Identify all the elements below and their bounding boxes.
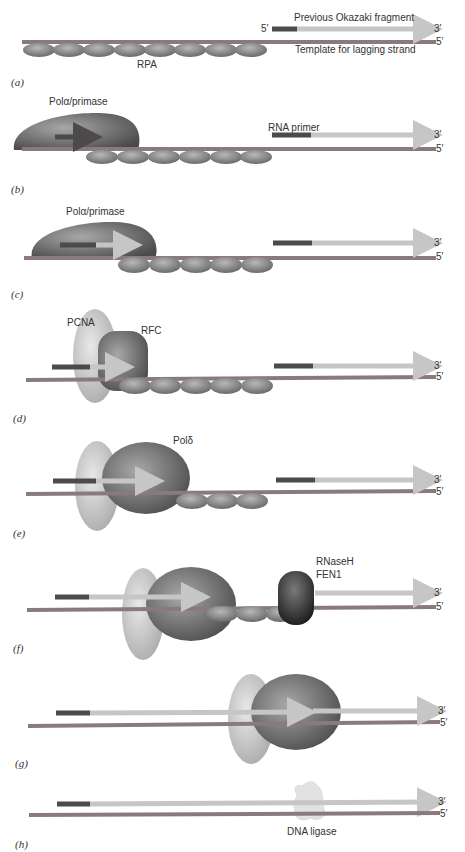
- rnaseh-fen1: [278, 571, 314, 625]
- five-prime-label: 5′: [261, 23, 268, 34]
- rnaseh-label: RNaseH: [316, 556, 354, 567]
- pol-delta-label: Polδ: [173, 435, 193, 446]
- panel-label-f: (f): [13, 642, 23, 654]
- three-prime-label: 3′: [434, 587, 441, 598]
- panel-b: [14, 113, 436, 164]
- panel-e: [26, 441, 436, 531]
- three-prime-label: 3′: [438, 796, 445, 807]
- three-prime-label: 3′: [434, 237, 441, 248]
- panel-label-h: (h): [15, 838, 28, 850]
- pol-alpha-primase: [32, 222, 157, 259]
- three-prime-label: 3′: [438, 705, 445, 716]
- pol-alpha-primase-label: Polα/primase: [66, 206, 125, 217]
- pcna-label: PCNA: [67, 317, 95, 328]
- panel-label-c: (c): [11, 288, 23, 300]
- five-prime-label: 5′: [440, 808, 447, 819]
- panel-f: [27, 567, 436, 660]
- rna-primer-label: RNA primer: [268, 122, 320, 133]
- okazaki-fragment-label: Previous Okazaki fragment: [294, 12, 414, 23]
- pol-alpha-primase-label: Polα/primase: [49, 96, 108, 107]
- rpa-chain: [176, 493, 268, 509]
- five-prime-label: 5′: [436, 143, 443, 154]
- template-label: Template for lagging strand: [295, 44, 416, 55]
- five-prime-label: 5′: [436, 251, 443, 262]
- three-prime-label: 3′: [434, 360, 441, 371]
- panel-label-g: (g): [15, 757, 28, 769]
- three-prime-label: 3′: [434, 129, 441, 140]
- rpa-chain: [23, 43, 267, 57]
- okazaki-diagram: [0, 0, 465, 852]
- three-prime-label: 3′: [434, 474, 441, 485]
- five-prime-label: 5′: [436, 486, 443, 497]
- panel-label-e: (e): [13, 527, 25, 539]
- five-prime-label: 5′: [436, 601, 443, 612]
- five-prime-label: 5′: [440, 717, 447, 728]
- rpa-chain: [86, 150, 272, 164]
- five-prime-label: 5′: [436, 36, 443, 47]
- panel-h: [29, 782, 440, 820]
- panel-c: [24, 222, 436, 273]
- pol-delta: [146, 567, 236, 641]
- panel-label-a: (a): [11, 76, 24, 88]
- rpa-label: RPA: [137, 59, 157, 70]
- three-prime-label: 3′: [434, 23, 441, 34]
- panel-label-d: (d): [13, 412, 26, 424]
- panel-label-b: (b): [11, 183, 24, 195]
- panel-g: [28, 674, 440, 764]
- pol-alpha-primase: [14, 113, 140, 150]
- five-prime-label: 5′: [436, 371, 443, 382]
- dna-ligase-label: DNA ligase: [287, 826, 336, 837]
- fen1-label: FEN1: [316, 569, 342, 580]
- rpa-chain: [118, 257, 273, 273]
- rpa-chain: [119, 378, 273, 394]
- rfc-label: RFC: [141, 325, 162, 336]
